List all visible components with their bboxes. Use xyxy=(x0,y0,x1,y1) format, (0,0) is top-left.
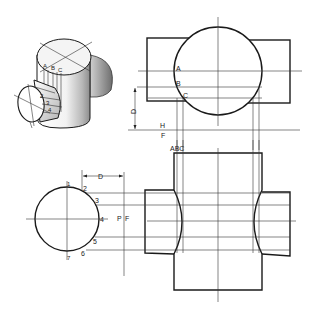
side-label-4: 4 xyxy=(100,216,104,223)
top-label-h: H xyxy=(160,122,165,129)
front-label-abc: ABC xyxy=(170,145,184,152)
top-label-c: C xyxy=(183,92,188,99)
isometric-view: A B C 2 3 4 xyxy=(14,39,112,128)
side-label-5: 5 xyxy=(93,238,97,245)
top-view: A B C D H F xyxy=(128,17,302,150)
front-right-branch xyxy=(262,192,290,256)
side-label-7: 7 xyxy=(67,255,71,261)
side-label-p: P xyxy=(117,215,122,222)
top-label-b: B xyxy=(176,80,181,87)
iso-label-b: B xyxy=(51,65,55,71)
side-label-3: 3 xyxy=(95,197,99,204)
side-label-2: 2 xyxy=(83,185,87,192)
side-dim-d: D xyxy=(98,173,103,180)
iso-back-branch xyxy=(90,55,112,97)
side-label-f: F xyxy=(125,215,129,222)
iso-top-ellipse xyxy=(37,39,91,75)
side-view: D 1 2 3 4 5 6 7 P F xyxy=(26,170,129,276)
iso-label-a: A xyxy=(43,63,47,69)
side-label-1: 1 xyxy=(67,181,71,187)
side-label-6: 6 xyxy=(81,250,85,257)
iso-label-c: C xyxy=(58,67,63,73)
front-left-branch xyxy=(145,190,174,254)
top-label-f: F xyxy=(161,132,165,139)
top-dim-d: D xyxy=(130,109,137,114)
top-label-a: A xyxy=(176,65,181,72)
drawing-canvas: A B C 2 3 4 A B C D H F xyxy=(0,0,313,312)
